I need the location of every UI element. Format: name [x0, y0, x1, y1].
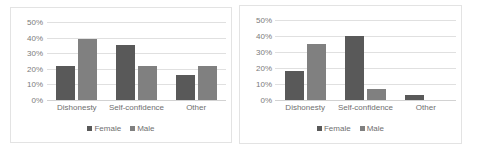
legend-label: Female	[324, 124, 351, 133]
x-axis-category-label: Self-confidence	[109, 103, 164, 112]
legend-item-male[interactable]: Male	[130, 124, 154, 133]
bars-left	[11, 8, 231, 142]
legend-label: Female	[94, 124, 121, 133]
x-axis-category-label: Self-confidence	[338, 103, 393, 112]
chart-panel-right: 0%10%20%30%40%50% DishonestySelf-confide…	[239, 5, 462, 144]
bar-male-self-confidence	[367, 89, 386, 100]
legend-item-female[interactable]: Female	[87, 124, 121, 133]
bar-female-other	[176, 75, 195, 100]
bar-male-other	[198, 66, 217, 100]
legend-right: FemaleMale	[240, 124, 461, 133]
legend-label: Male	[137, 124, 154, 133]
bars-right	[240, 6, 461, 143]
bar-male-self-confidence	[138, 66, 157, 100]
legend-swatch-icon	[87, 126, 92, 131]
bar-male-dishonesty	[78, 39, 97, 100]
legend-left: FemaleMale	[11, 124, 231, 133]
bar-female-self-confidence	[345, 36, 364, 100]
bar-female-self-confidence	[116, 45, 135, 100]
charts-row: 0%10%20%30%40%50% DishonestySelf-confide…	[0, 0, 477, 152]
x-axis-category-label: Other	[186, 103, 206, 112]
legend-swatch-icon	[130, 126, 135, 131]
legend-item-male[interactable]: Male	[360, 124, 384, 133]
x-axis-category-label: Dishonesty	[285, 103, 325, 112]
legend-item-female[interactable]: Female	[317, 124, 351, 133]
x-axis-category-label: Other	[416, 103, 436, 112]
bar-male-dishonesty	[307, 44, 326, 100]
chart-panel-left: 0%10%20%30%40%50% DishonestySelf-confide…	[10, 7, 232, 143]
bar-female-other	[405, 95, 424, 100]
plot-area-left: 0%10%20%30%40%50% DishonestySelf-confide…	[11, 8, 231, 142]
legend-label: Male	[367, 124, 384, 133]
bar-female-dishonesty	[285, 71, 304, 100]
plot-area-right: 0%10%20%30%40%50% DishonestySelf-confide…	[240, 6, 461, 143]
legend-swatch-icon	[360, 126, 365, 131]
legend-swatch-icon	[317, 126, 322, 131]
bar-female-dishonesty	[56, 66, 75, 100]
x-axis-category-label: Dishonesty	[57, 103, 97, 112]
